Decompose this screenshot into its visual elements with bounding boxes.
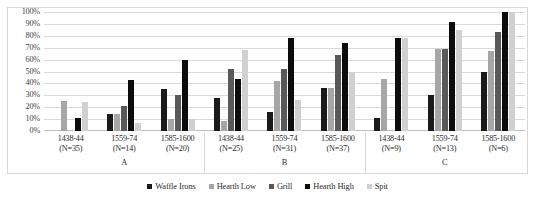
bar <box>321 88 327 131</box>
bar <box>175 95 181 131</box>
x-axis-label: 1559-74(N=14) <box>97 134 150 158</box>
bar-group <box>151 12 204 131</box>
y-axis-tick-label: 80% <box>0 32 40 40</box>
bar <box>114 114 120 131</box>
y-axis-tick-label: 100% <box>0 8 40 16</box>
bar <box>267 112 273 131</box>
bar <box>242 50 248 131</box>
y-axis-tick-label: 40% <box>0 79 40 87</box>
plot-area <box>44 12 525 131</box>
legend-label: Hearth High <box>313 182 354 191</box>
x-axis-label-count: (N=6) <box>472 144 525 154</box>
x-axis-label-period: 1559-74 <box>111 134 137 143</box>
bar <box>221 121 227 131</box>
section-label: C <box>365 157 525 171</box>
x-axis-label-count: (N=37) <box>311 144 364 154</box>
y-axis-tick-label: 60% <box>0 56 40 64</box>
bar <box>61 101 67 131</box>
chart-container: 100%90%80%70%60%50%40%30%20%10%0% 1438-4… <box>0 0 535 212</box>
x-axis-labels: 1438-44(N=35)1559-74(N=14)1585-1600(N=20… <box>44 134 525 158</box>
x-axis-label-period: 1559-74 <box>272 134 298 143</box>
bar <box>509 12 515 131</box>
bar <box>128 80 134 131</box>
bar-group <box>472 12 525 131</box>
bar <box>456 30 462 131</box>
chart-legend: Waffle IronsHearth LowGrillHearth HighSp… <box>0 182 535 191</box>
bar <box>82 102 88 131</box>
bar <box>502 12 508 131</box>
bar <box>189 119 195 131</box>
bar <box>435 49 441 131</box>
y-axis-tick-label: 50% <box>0 68 40 76</box>
bar <box>168 119 174 131</box>
bar <box>75 118 81 131</box>
y-axis-tick-label: 10% <box>0 115 40 123</box>
bar <box>214 98 220 131</box>
bar-group <box>204 12 257 131</box>
x-axis-label: 1438-44(N=9) <box>365 134 418 158</box>
x-axis-label-period: 1585-1600 <box>321 134 355 143</box>
x-axis-label: 1559-74(N=31) <box>258 134 311 158</box>
legend-swatch-icon <box>305 184 310 189</box>
x-axis-label-count: (N=9) <box>365 144 418 154</box>
legend-label: Grill <box>277 182 292 191</box>
legend-label: Hearth Low <box>217 182 256 191</box>
bar <box>495 32 501 131</box>
x-axis-label-count: (N=25) <box>204 144 257 154</box>
x-axis-label: 1559-74(N=13) <box>418 134 471 158</box>
bar <box>335 55 341 131</box>
bar-group <box>97 12 150 131</box>
legend-swatch-icon <box>209 184 214 189</box>
y-axis-tick-label: 30% <box>0 91 40 99</box>
bar-group <box>365 12 418 131</box>
bar <box>381 79 387 131</box>
y-axis-tick-label: 20% <box>0 103 40 111</box>
bar <box>161 89 167 131</box>
section-label: B <box>204 157 364 171</box>
x-axis-label-period: 1438-44 <box>58 134 84 143</box>
x-axis-label-period: 1585-1600 <box>161 134 195 143</box>
bar <box>449 22 455 131</box>
x-axis-label-period: 1559-74 <box>432 134 458 143</box>
legend-swatch-icon <box>367 184 372 189</box>
y-axis: 100%90%80%70%60%50%40%30%20%10%0% <box>0 6 40 126</box>
x-axis-label-period: 1438-44 <box>218 134 244 143</box>
x-axis-label: 1438-44(N=25) <box>204 134 257 158</box>
bar <box>481 72 487 132</box>
bar <box>281 69 287 131</box>
bar <box>228 69 234 131</box>
x-axis-label-count: (N=31) <box>258 144 311 154</box>
legend-item[interactable]: Hearth High <box>305 182 354 191</box>
bar <box>374 118 380 131</box>
section-label: A <box>44 157 204 171</box>
legend-item[interactable]: Hearth Low <box>209 182 256 191</box>
bar <box>295 100 301 131</box>
x-axis-label: 1438-44(N=35) <box>44 134 97 158</box>
bar <box>274 81 280 131</box>
bar <box>402 38 408 131</box>
legend-item[interactable]: Grill <box>269 182 292 191</box>
x-axis-label-count: (N=35) <box>44 144 97 154</box>
legend-item[interactable]: Spit <box>367 182 388 191</box>
bar <box>288 38 294 131</box>
x-axis-label-count: (N=13) <box>418 144 471 154</box>
bar <box>121 106 127 131</box>
bar-group <box>258 12 311 131</box>
bar <box>342 43 348 131</box>
x-axis-label-count: (N=20) <box>151 144 204 154</box>
bar <box>107 114 113 131</box>
bar <box>428 95 434 131</box>
bar-group <box>311 12 364 131</box>
y-axis-tick-label: 70% <box>0 44 40 52</box>
x-axis-label-period: 1438-44 <box>378 134 404 143</box>
legend-item[interactable]: Waffle Irons <box>147 182 196 191</box>
x-axis-label: 1585-1600(N=20) <box>151 134 204 158</box>
section-labels: ABC <box>44 157 525 171</box>
bar-groups <box>44 12 525 131</box>
y-axis-tick-label: 90% <box>0 20 40 28</box>
x-axis-label-count: (N=14) <box>97 144 150 154</box>
bar-group <box>418 12 471 131</box>
bar-group <box>44 12 97 131</box>
bar <box>395 38 401 131</box>
bar <box>328 88 334 131</box>
